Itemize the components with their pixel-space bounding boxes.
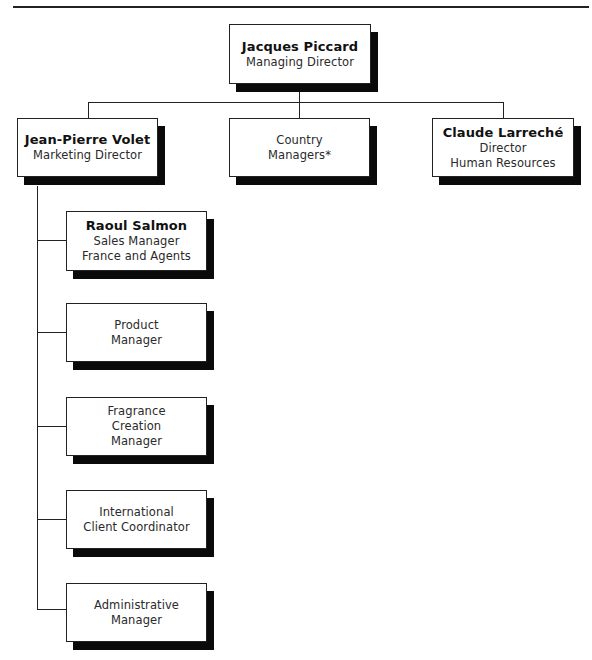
connector-to-marketing [88,102,89,118]
node-title-line: International [99,505,174,520]
connector-to-country [299,102,300,118]
node-managing-director: Jacques Piccard Managing Director [229,24,371,84]
node-country-managers: Country Managers* [229,118,370,177]
connector-to-sales [37,240,66,241]
node-name: Jean-Pierre Volet [25,132,151,148]
node-administrative-manager: Administrative Manager [66,583,207,642]
node-title-line: Director [480,141,527,156]
node-title-line: France and Agents [82,249,191,264]
connector-to-product [37,332,66,333]
connector-level1-horizontal [88,102,504,103]
connector-to-hr [503,102,504,118]
connector-marketing-spine [37,186,38,610]
node-title-line: Country [276,133,322,148]
node-title-line: Manager [111,434,162,449]
node-title-line: Manager [111,613,162,628]
connector-to-international [37,519,66,520]
node-title-line: Administrative [94,598,179,613]
header-rule [13,6,589,8]
node-sales-manager: Raoul Salmon Sales Manager France and Ag… [66,211,207,271]
node-title-line: Creation [112,419,161,434]
node-title-line: Sales Manager [94,234,180,249]
node-name: Claude Larreché [443,125,564,141]
node-title-line: Client Coordinator [83,520,189,535]
connector-to-admin [37,609,66,610]
node-product-manager: Product Manager [66,303,207,362]
node-international-client-coordinator: International Client Coordinator [66,490,207,549]
node-marketing-director: Jean-Pierre Volet Marketing Director [17,118,158,177]
connector-to-fragrance [37,426,66,427]
node-title-line: Product [114,318,158,333]
node-title-line: Human Resources [450,156,555,171]
node-fragrance-creation-manager: Fragrance Creation Manager [66,397,207,456]
connector-top-down [299,84,300,103]
node-name: Raoul Salmon [86,218,187,234]
node-title-line: Manager [111,333,162,348]
node-hr-director: Claude Larreché Director Human Resources [432,118,574,177]
node-title-line: Fragrance [107,404,165,419]
node-title: Managing Director [246,55,354,70]
node-name: Jacques Piccard [242,39,358,55]
node-title: Marketing Director [33,148,142,163]
node-title-line: Managers* [268,148,331,163]
